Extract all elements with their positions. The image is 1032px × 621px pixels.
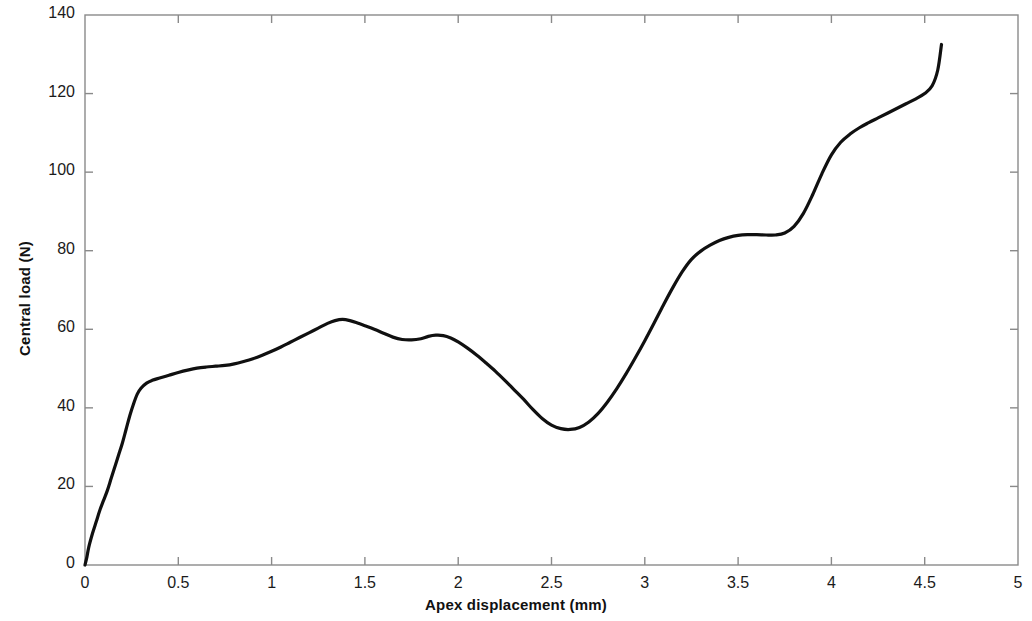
x-tick-label: 4.5 — [895, 574, 955, 592]
plot-frame — [85, 15, 1018, 565]
y-tick-label: 120 — [15, 83, 75, 101]
x-tick-label: 4 — [801, 574, 861, 592]
chart-figure: Apex displacement (mm) Central load (N) … — [0, 0, 1032, 621]
x-tick-label: 2 — [428, 574, 488, 592]
y-tick-label: 140 — [15, 4, 75, 22]
x-tick-label: 3 — [615, 574, 675, 592]
x-tick-label: 0 — [55, 574, 115, 592]
x-tick-label: 3.5 — [708, 574, 768, 592]
x-tick-label: 1 — [242, 574, 302, 592]
y-tick-label: 40 — [15, 397, 75, 415]
x-tick-label: 0.5 — [148, 574, 208, 592]
x-tick-label: 5 — [988, 574, 1032, 592]
y-tick-label: 80 — [15, 240, 75, 258]
plot-canvas — [0, 0, 1032, 621]
x-tick-label: 1.5 — [335, 574, 395, 592]
x-axis-title: Apex displacement (mm) — [0, 596, 1032, 613]
y-tick-label: 60 — [15, 318, 75, 336]
y-tick-label: 0 — [15, 554, 75, 572]
x-tick-label: 2.5 — [522, 574, 582, 592]
y-tick-label: 100 — [15, 161, 75, 179]
y-tick-label: 20 — [15, 475, 75, 493]
